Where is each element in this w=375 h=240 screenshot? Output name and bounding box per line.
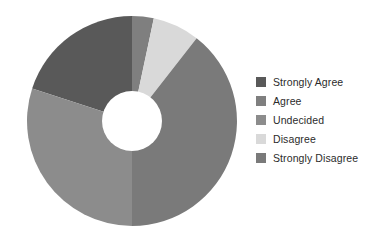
legend-item-label: Agree xyxy=(273,95,302,107)
legend-item-label: Undecided xyxy=(273,114,324,126)
legend-item-agree[interactable]: Agree xyxy=(256,93,375,108)
legend-swatch-icon xyxy=(256,134,266,144)
legend-swatch-icon xyxy=(256,153,266,163)
donut-plot-area xyxy=(0,0,252,240)
legend-item-label: Strongly Agree xyxy=(273,76,343,88)
donut-center-hole xyxy=(102,91,162,151)
legend-item-label: Strongly Disagree xyxy=(273,152,358,164)
legend-swatch-icon xyxy=(256,77,266,87)
chart-legend: Strongly Agree Agree Undecided Disagree … xyxy=(256,74,375,165)
legend-item-label: Disagree xyxy=(273,133,316,145)
legend-item-strongly-agree[interactable]: Strongly Agree xyxy=(256,74,375,89)
legend-item-undecided[interactable]: Undecided xyxy=(256,112,375,127)
legend-item-strongly-disagree[interactable]: Strongly Disagree xyxy=(256,150,375,165)
donut-chart-figure: Strongly Agree Agree Undecided Disagree … xyxy=(0,0,375,240)
donut-svg xyxy=(0,0,252,240)
legend-item-disagree[interactable]: Disagree xyxy=(256,131,375,146)
legend-swatch-icon xyxy=(256,96,266,106)
legend-swatch-icon xyxy=(256,115,266,125)
